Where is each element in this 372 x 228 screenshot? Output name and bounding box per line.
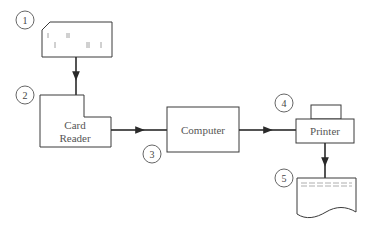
flow-diagram: 1 Card Reader 2 3 Computer 4	[0, 0, 372, 228]
computer-icon: Computer	[167, 107, 239, 152]
step-4-number: 4	[282, 98, 287, 109]
step-2-badge: 2	[16, 86, 34, 104]
step-1-badge: 1	[16, 11, 34, 29]
printer-label: Printer	[310, 125, 340, 137]
step-4-badge: 4	[275, 94, 293, 112]
card-reader-label-line2: Reader	[59, 132, 90, 144]
printer-icon: Printer	[296, 105, 354, 143]
step-3-number: 3	[150, 149, 155, 160]
card-reader-label-line1: Card	[64, 119, 86, 131]
computer-label: Computer	[181, 124, 225, 136]
step-2-number: 2	[23, 90, 28, 101]
step-5-number: 5	[282, 173, 287, 184]
step-5-badge: 5	[275, 169, 293, 187]
card-reader-icon: Card Reader	[40, 95, 111, 147]
printout-document-icon	[297, 178, 356, 218]
step-1-number: 1	[23, 15, 28, 26]
punched-card-icon	[42, 22, 112, 57]
step-3-badge: 3	[143, 145, 161, 163]
